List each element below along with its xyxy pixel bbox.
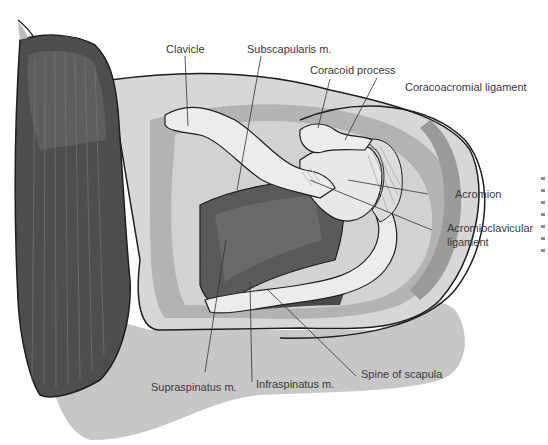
label-supraspinatus: Supraspinatus m. — [151, 381, 237, 394]
label-coracoid-process: Coracoid process — [310, 64, 396, 77]
label-acromion: Acromion — [455, 188, 501, 201]
label-subscapularis: Subscapularis m. — [247, 43, 331, 56]
trapezius-highlight — [28, 51, 107, 150]
label-spine-of-scapula: Spine of scapula — [361, 368, 442, 381]
label-infraspinatus: Infraspinatus m. — [256, 378, 334, 391]
cropped-caption-edge — [541, 177, 547, 272]
label-clavicle: Clavicle — [166, 43, 205, 56]
label-coracoacromial-ligament: Coracoacromial ligament — [405, 81, 527, 94]
label-acromioclavicular-line2: ligament — [447, 236, 489, 249]
shoulder-anatomy-figure: Clavicle Subscapularis m. Coracoid proce… — [0, 0, 548, 445]
label-acromioclavicular-line1: Acromioclavicular — [447, 222, 533, 235]
